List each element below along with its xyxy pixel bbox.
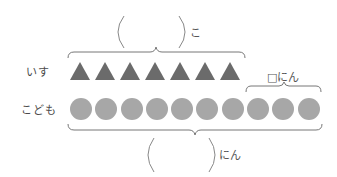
triangle-icon [195, 62, 215, 80]
circle-icon [247, 98, 269, 120]
triangle-icon [120, 62, 140, 80]
bottom-unit-label: にん [219, 146, 241, 162]
bottom-right-paren [209, 138, 215, 172]
triangle-icon [145, 62, 165, 80]
braces-and-parens [0, 0, 337, 177]
triangle-icon [170, 62, 190, 80]
top-brace [68, 47, 245, 58]
triangle-icon [70, 62, 90, 80]
circle-icon [298, 98, 320, 120]
triangle-icon [95, 62, 115, 80]
chairs-label: いす [26, 63, 50, 79]
top-unit-label: こ [190, 24, 201, 40]
circle-icon [146, 98, 168, 120]
circle-icon [121, 98, 143, 120]
triangle-icon [220, 62, 240, 80]
circle-icon [196, 98, 218, 120]
circle-icon [70, 98, 92, 120]
bottom-brace [68, 124, 322, 135]
right-brace-label: □にん [267, 68, 299, 84]
children-label: こども [21, 101, 57, 117]
circle-icon [95, 98, 117, 120]
top-left-paren [118, 16, 124, 48]
bottom-left-paren [148, 138, 154, 172]
circle-icon [222, 98, 244, 120]
circle-icon [272, 98, 294, 120]
children-row [70, 98, 323, 120]
circle-icon [171, 98, 193, 120]
chairs-row [70, 62, 245, 80]
top-right-paren [179, 16, 185, 48]
